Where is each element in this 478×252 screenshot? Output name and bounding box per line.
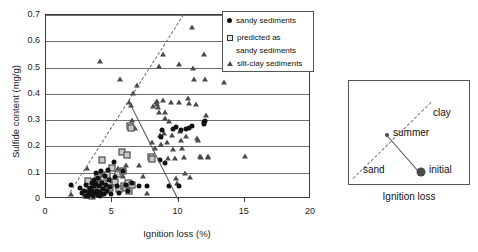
data-point-filled-triangle: [160, 98, 166, 103]
filled-circle-icon: [227, 18, 232, 23]
legend: sandy sediments predicted as sandy sedim…: [222, 11, 314, 72]
data-point-filled-circle: [116, 191, 121, 196]
legend-label: predicted as: [237, 33, 281, 42]
legend-item-siltclay: silt-clay sediments: [227, 59, 302, 68]
x-tick-label: 0: [42, 206, 47, 216]
gridline: [46, 146, 309, 147]
data-point-filled-triangle: [189, 24, 195, 29]
data-point-filled-triangle: [195, 137, 201, 142]
x-tick-label: 20: [305, 206, 315, 216]
data-point-filled-circle: [123, 182, 128, 187]
data-point-filled-triangle: [117, 77, 123, 82]
data-point-filled-triangle: [221, 80, 227, 85]
data-point-filled-circle: [106, 167, 111, 172]
data-point-filled-triangle: [176, 61, 182, 66]
figure-root: Sulfide content (mg/g) 00.10.20.30.40.50…: [0, 0, 478, 252]
data-point-filled-triangle: [193, 101, 199, 106]
data-point-filled-circle: [108, 192, 113, 197]
y-tick-label: 0.5: [0, 62, 40, 72]
data-point-filled-triangle: [191, 77, 197, 82]
data-point-filled-circle: [176, 184, 181, 189]
data-point-filled-triangle: [185, 95, 191, 100]
main-scatter-chart: Sulfide content (mg/g) 00.10.20.30.40.50…: [0, 0, 332, 252]
gridline: [46, 120, 309, 121]
data-point-filled-triangle: [190, 66, 196, 71]
inset-label-sand: sand: [363, 164, 385, 175]
x-tick-label: 5: [109, 206, 114, 216]
y-tick-label: 0: [0, 193, 40, 203]
legend-item-predicted-cont: sandy sediments: [227, 46, 296, 55]
data-point-filled-circle: [163, 160, 168, 165]
data-point-filled-triangle: [205, 154, 211, 159]
data-point-filled-triangle: [160, 52, 166, 57]
data-point-filled-triangle: [176, 100, 182, 105]
y-tick-label: 0.2: [0, 140, 40, 150]
data-point-filled-circle: [130, 180, 135, 185]
legend-label: sandy sediments: [236, 46, 296, 55]
open-square-icon: [227, 35, 233, 41]
inset-schematic-diagram: Sulfide content clay summer sand initial…: [338, 0, 478, 252]
legend-item-sandy: sandy sediments: [227, 16, 296, 25]
y-tick-label: 0.1: [0, 167, 40, 177]
data-point-filled-circle: [126, 189, 131, 194]
x-tick-label: 10: [172, 206, 182, 216]
y-tick-label: 0.6: [0, 35, 40, 45]
data-point-filled-circle: [136, 183, 141, 188]
data-point-filled-triangle: [186, 101, 192, 106]
data-point-filled-circle: [111, 160, 116, 165]
data-point-filled-circle: [159, 135, 164, 140]
data-point-filled-triangle: [187, 175, 193, 180]
data-point-filled-circle: [203, 118, 208, 123]
data-point-filled-triangle: [156, 64, 162, 69]
data-point-filled-triangle: [166, 118, 172, 123]
data-point-open-square: [123, 151, 130, 158]
data-point-filled-triangle: [164, 139, 170, 144]
data-point-filled-triangle: [242, 153, 248, 158]
data-point-open-square: [98, 157, 105, 164]
data-point-filled-circle: [114, 184, 119, 189]
data-point-filled-triangle: [169, 133, 175, 138]
y-tick-label: 0.4: [0, 88, 40, 98]
data-point-filled-circle: [108, 185, 113, 190]
data-point-open-square: [149, 156, 156, 163]
data-point-filled-triangle: [170, 147, 176, 152]
inset-x-axis-title: Ignition loss: [383, 191, 436, 202]
data-point-filled-circle: [112, 174, 117, 179]
initial-point-marker: [417, 168, 426, 177]
inset-plot-area: clay summer sand initial: [348, 80, 470, 185]
legend-label: silt-clay sediments: [237, 59, 302, 68]
data-point-filled-triangle: [97, 59, 103, 64]
data-point-filled-circle: [159, 128, 164, 133]
data-point-filled-triangle: [162, 110, 168, 115]
data-point-filled-triangle: [181, 154, 187, 159]
filled-triangle-icon: [227, 61, 233, 66]
data-point-filled-circle: [120, 169, 125, 174]
gridline: [46, 173, 309, 174]
data-point-filled-triangle: [198, 155, 204, 160]
x-tick-mark: [178, 198, 179, 202]
data-point-filled-triangle: [168, 99, 174, 104]
data-point-filled-circle: [179, 128, 184, 133]
data-point-filled-triangle: [144, 191, 150, 196]
data-point-filled-triangle: [203, 113, 209, 118]
data-point-filled-circle: [189, 123, 194, 128]
data-point-filled-triangle: [172, 156, 178, 161]
data-point-filled-triangle: [201, 51, 207, 56]
x-tick-mark: [244, 198, 245, 202]
data-point-open-square: [127, 124, 134, 131]
summer-point-marker: [385, 133, 389, 137]
legend-label: sandy sediments: [236, 16, 296, 25]
legend-item-predicted: predicted as: [227, 33, 281, 42]
data-point-filled-triangle: [202, 77, 208, 82]
x-tick-mark: [111, 198, 112, 202]
data-point-filled-triangle: [123, 162, 129, 167]
data-point-filled-circle: [173, 124, 178, 129]
data-point-filled-circle: [106, 178, 111, 183]
inset-label-clay: clay: [433, 107, 451, 118]
x-axis-title: Ignition loss (%): [143, 228, 211, 239]
inset-label-initial: initial: [429, 164, 452, 175]
inset-label-summer: summer: [393, 127, 429, 138]
data-point-filled-triangle: [155, 105, 161, 110]
data-point-filled-circle: [144, 184, 149, 189]
data-point-filled-triangle: [140, 173, 146, 178]
